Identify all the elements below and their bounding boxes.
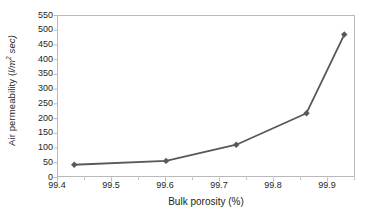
x-axis-title: Bulk porosity (%) <box>57 196 355 207</box>
x-axis-tick-label: 99.7 <box>199 180 239 190</box>
x-axis-tick-label: 99.5 <box>91 180 131 190</box>
x-axis-tick-labels: 99.499.599.699.799.899.9 <box>0 180 374 194</box>
x-axis-tick-label: 99.6 <box>145 180 185 190</box>
x-axis-tick-label: 99.8 <box>253 180 293 190</box>
chart-figure: Air permeability (l/m2 sec) 050100150200… <box>0 0 374 220</box>
x-axis-tick-label: 99.4 <box>37 180 77 190</box>
x-axis-tick-label: 99.9 <box>307 180 347 190</box>
